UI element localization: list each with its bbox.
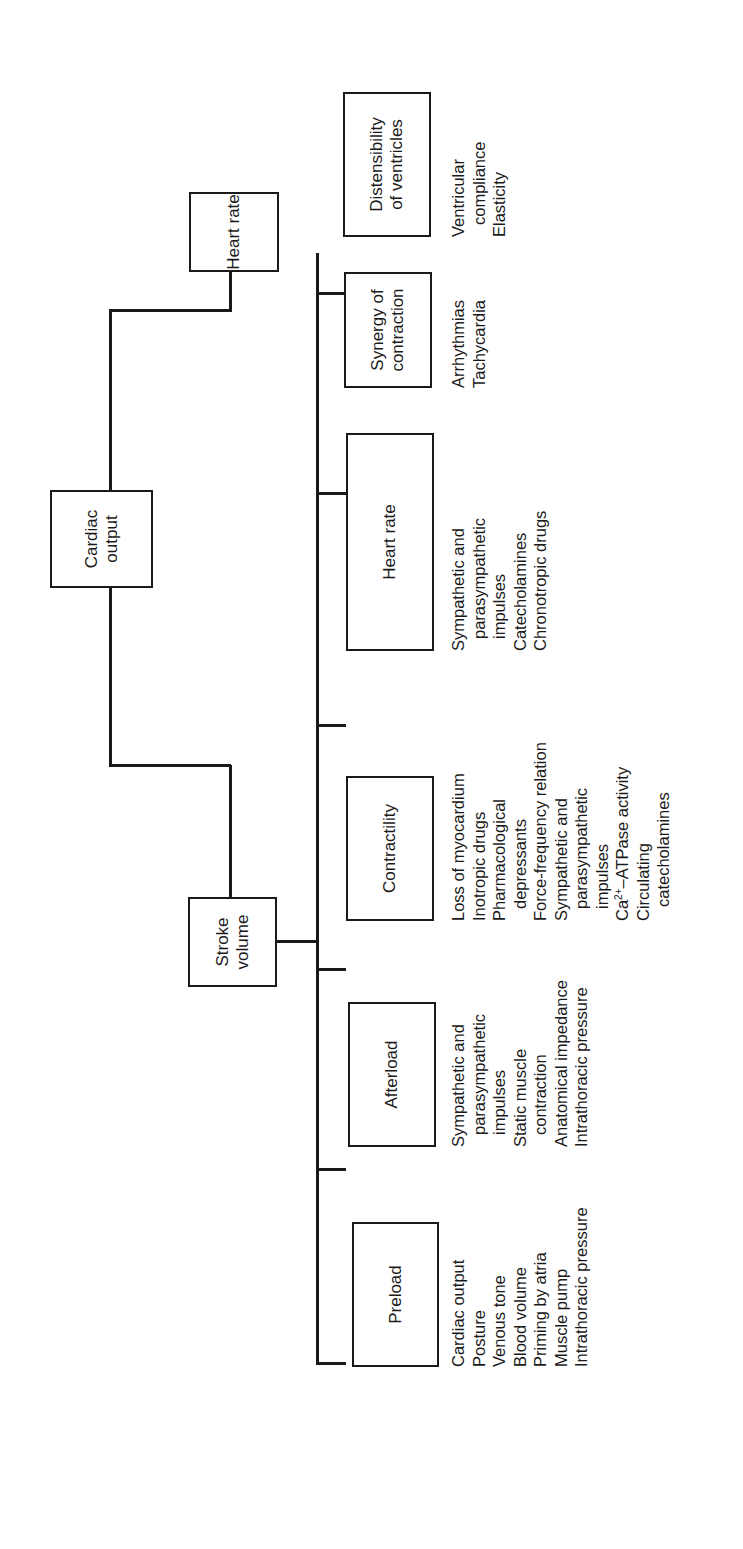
connector-line bbox=[109, 587, 112, 767]
factor: catecholamines bbox=[653, 742, 674, 921]
factor: Elasticity bbox=[489, 142, 510, 237]
afterload-factors: Sympathetic and parasympathetic impulses… bbox=[448, 980, 592, 1147]
node-label: Preload bbox=[386, 1265, 406, 1324]
factor: Inotropic drugs bbox=[469, 742, 490, 921]
factor: Arrhythmias bbox=[448, 300, 469, 388]
connector-line bbox=[277, 941, 319, 944]
factor-text: Ca bbox=[613, 900, 631, 921]
connector-line bbox=[229, 765, 232, 897]
node-label-line1: Synergy of bbox=[368, 289, 388, 370]
contractility-factors: Loss of myocardium Inotropic drugs Pharm… bbox=[448, 742, 674, 921]
connector-line bbox=[109, 765, 231, 768]
factor: contraction bbox=[530, 980, 551, 1147]
node-contractility: Contractility bbox=[346, 776, 434, 921]
node-label: Cardiac output bbox=[82, 492, 121, 586]
factor: Pharmacological bbox=[489, 742, 510, 921]
heart-rate-factors: Sympathetic and parasympathetic impulses… bbox=[448, 511, 551, 651]
factor: Sympathetic and bbox=[551, 742, 572, 921]
connector-line bbox=[109, 310, 231, 313]
node-label-line2: contraction bbox=[388, 288, 408, 371]
node-label-line1: Distensibility bbox=[367, 117, 387, 211]
cardiac-output-diagram: Cardiac output Heart rate Stroke volume … bbox=[0, 0, 743, 1549]
node-label: Stroke volume bbox=[213, 899, 252, 985]
superscript: 2+ bbox=[613, 889, 624, 900]
factor: Catecholamines bbox=[510, 511, 531, 651]
node-label: Afterload bbox=[382, 1040, 402, 1108]
connector-line bbox=[109, 310, 112, 490]
factor: Intrathoracic pressure bbox=[571, 980, 592, 1147]
connector-line bbox=[316, 293, 346, 296]
node-synergy-of-contraction: Synergy of contraction bbox=[344, 272, 432, 388]
factor: Anatomical impedance bbox=[551, 980, 572, 1147]
factor: parasympathetic bbox=[469, 511, 490, 651]
factor: impulses bbox=[592, 742, 613, 921]
factor: Force-frequency relation bbox=[530, 742, 551, 921]
distensibility-factors: Ventricular compliance Elasticity bbox=[448, 142, 510, 237]
factor: Ventricular bbox=[448, 142, 469, 237]
factor: Ca2+–ATPase activity bbox=[612, 742, 633, 921]
connector-line bbox=[316, 493, 346, 496]
factor: parasympathetic bbox=[469, 980, 490, 1147]
node-label: Heart rate bbox=[224, 194, 244, 270]
node-stroke-volume: Stroke volume bbox=[188, 897, 277, 987]
factor: Posture bbox=[469, 1207, 490, 1367]
factor: Static muscle bbox=[510, 980, 531, 1147]
node-distensibility-of-ventricles: Distensibility of ventricles bbox=[343, 92, 431, 237]
bus-line bbox=[316, 253, 319, 1365]
factor: Blood volume bbox=[510, 1207, 531, 1367]
node-cardiac-output: Cardiac output bbox=[50, 490, 153, 588]
node-heart-rate-secondary: Heart rate bbox=[346, 433, 434, 651]
connector-line bbox=[316, 1169, 346, 1172]
factor: Circulating bbox=[633, 742, 654, 921]
factor: Sympathetic and bbox=[448, 980, 469, 1147]
factor: Priming by atria bbox=[530, 1207, 551, 1367]
factor: parasympathetic bbox=[571, 742, 592, 921]
node-preload: Preload bbox=[352, 1222, 439, 1367]
factor: Muscle pump bbox=[551, 1207, 572, 1367]
factor: Chronotropic drugs bbox=[530, 511, 551, 651]
factor: impulses bbox=[489, 980, 510, 1147]
factor: Sympathetic and bbox=[448, 511, 469, 651]
factor-text: –ATPase activity bbox=[613, 767, 631, 889]
connector-line bbox=[316, 1363, 346, 1366]
factor: Tachycardia bbox=[469, 300, 490, 388]
node-label: Contractility bbox=[380, 804, 400, 893]
connector-line bbox=[316, 969, 346, 972]
factor: Venous tone bbox=[489, 1207, 510, 1367]
factor: depressants bbox=[510, 742, 531, 921]
node-heart-rate: Heart rate bbox=[189, 192, 279, 272]
preload-factors: Cardiac output Posture Venous tone Blood… bbox=[448, 1207, 592, 1367]
connector-line bbox=[316, 725, 346, 728]
node-label-line2: of ventricles bbox=[387, 119, 407, 210]
synergy-factors: Arrhythmias Tachycardia bbox=[448, 300, 489, 388]
factor: compliance bbox=[469, 142, 490, 237]
node-label: Heart rate bbox=[380, 504, 400, 580]
factor: Cardiac output bbox=[448, 1207, 469, 1367]
factor: Loss of myocardium bbox=[448, 742, 469, 921]
factor: Intrathoracic pressure bbox=[571, 1207, 592, 1367]
node-afterload: Afterload bbox=[348, 1002, 436, 1147]
factor: impulses bbox=[489, 511, 510, 651]
